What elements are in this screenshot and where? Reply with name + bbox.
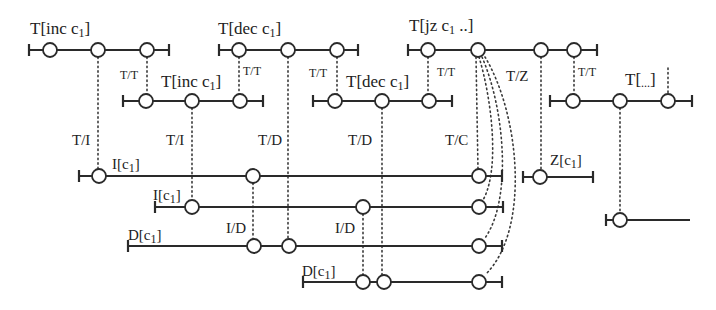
connector-tc-i1 — [476, 57, 478, 169]
label-i-2: I[c1] — [153, 187, 181, 206]
event-node[interactable] — [472, 275, 486, 289]
edge-label-ti1: T/I — [72, 132, 90, 148]
edge-label-tt2: T/T — [243, 64, 262, 78]
label-t-etc: T[...] — [625, 70, 656, 90]
event-node[interactable] — [328, 94, 342, 108]
event-node[interactable] — [185, 200, 199, 214]
event-node[interactable] — [421, 43, 435, 57]
event-node[interactable] — [377, 275, 391, 289]
timeline-diagram: T[inc c1] T[dec c1] T[jz c1 ..] T[inc c1… — [0, 0, 716, 310]
timeline-t-inc-2 — [123, 94, 263, 108]
timeline-unlabeled — [606, 213, 690, 227]
event-node[interactable] — [534, 43, 548, 57]
event-node[interactable] — [566, 94, 580, 108]
event-node[interactable] — [375, 94, 389, 108]
event-node[interactable] — [281, 43, 295, 57]
edge-label-tt4: T/T — [437, 65, 456, 79]
event-node[interactable] — [92, 169, 106, 183]
label-t-jz-1: T[jz c1 ..] — [409, 16, 474, 37]
event-node[interactable] — [567, 43, 581, 57]
edge-label-tt3: T/T — [309, 66, 328, 80]
label-d-2: D[c1] — [302, 263, 336, 282]
event-node[interactable] — [472, 200, 486, 214]
label-t-inc-2: T[inc c1] — [161, 72, 221, 93]
edge-label-tt5: T/T — [578, 65, 597, 79]
edge-label-ti2: T/I — [166, 132, 184, 148]
timeline-t-dec-2 — [313, 94, 452, 108]
label-d-1: D[c1] — [128, 227, 162, 246]
event-node[interactable] — [472, 169, 486, 183]
event-node[interactable] — [139, 94, 153, 108]
edge-label-id2: I/D — [335, 220, 355, 236]
event-node[interactable] — [330, 43, 344, 57]
edge-label-td1: T/D — [258, 132, 282, 148]
connector-tc-d2 — [485, 57, 515, 274]
event-node[interactable] — [232, 43, 246, 57]
timeline-t-jz-1 — [408, 43, 597, 57]
edge-label-tc: T/C — [445, 132, 468, 148]
edge-label-id1: I/D — [226, 220, 246, 236]
event-node[interactable] — [140, 43, 154, 57]
event-node[interactable] — [91, 43, 105, 57]
edge-label-td2: T/D — [348, 132, 372, 148]
event-node[interactable] — [185, 94, 199, 108]
label-i-1: I[c1] — [112, 156, 140, 175]
event-node[interactable] — [613, 213, 627, 227]
event-node[interactable] — [533, 170, 547, 184]
event-node[interactable] — [471, 43, 485, 57]
label-t-inc-1: T[inc c1] — [30, 19, 90, 40]
event-node[interactable] — [233, 94, 247, 108]
timeline-t-etc — [550, 94, 692, 108]
event-node[interactable] — [43, 43, 57, 57]
event-node[interactable] — [472, 239, 486, 253]
event-node[interactable] — [282, 239, 296, 253]
edge-label-tt1: T/T — [120, 68, 139, 82]
event-node[interactable] — [613, 94, 627, 108]
timeline-t-inc-1 — [29, 43, 169, 57]
timeline-i-2 — [155, 200, 503, 214]
label-t-dec-2: T[dec c1] — [346, 72, 409, 93]
timeline-d-1 — [128, 239, 502, 253]
edge-label-tz: T/Z — [506, 68, 529, 84]
label-z-1: Z[c1] — [550, 152, 582, 171]
timeline-t-dec-1 — [219, 43, 358, 57]
event-node[interactable] — [661, 94, 675, 108]
event-node[interactable] — [356, 200, 370, 214]
event-node[interactable] — [356, 275, 370, 289]
label-t-dec-1: T[dec c1] — [218, 19, 281, 40]
event-node[interactable] — [246, 169, 260, 183]
timeline-i-1 — [79, 169, 502, 183]
event-node[interactable] — [422, 94, 436, 108]
timeline-z-1 — [523, 170, 593, 184]
event-node[interactable] — [247, 239, 261, 253]
